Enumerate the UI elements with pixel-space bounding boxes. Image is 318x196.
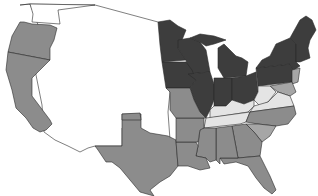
state-IN xyxy=(214,78,232,106)
us-map xyxy=(0,0,318,196)
state-NJ xyxy=(292,68,300,84)
state-OK-strip xyxy=(122,113,141,120)
state-FL xyxy=(220,156,276,194)
state-NY xyxy=(256,38,300,70)
state-MI xyxy=(218,44,248,78)
